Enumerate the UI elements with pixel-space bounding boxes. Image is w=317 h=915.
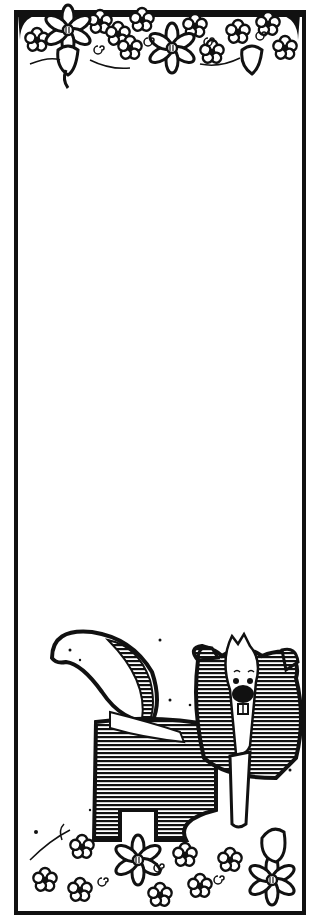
skunk-illustration [52, 632, 301, 840]
floral-border-top [24, 5, 298, 88]
